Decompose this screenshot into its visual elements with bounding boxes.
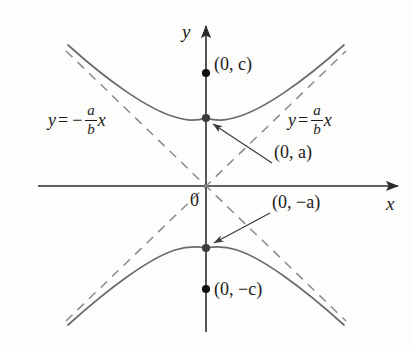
focus-lower-dot (202, 285, 210, 293)
eq-left-fraction: a b (85, 103, 97, 138)
eq-right-denominator: b (311, 122, 323, 138)
eq-right-fraction: a b (311, 103, 323, 138)
eq-left-equals: = (56, 111, 70, 129)
asymptote-negative-slope-equation: y = − a b x (48, 103, 106, 138)
asymptote-positive-slope-equation: y = a b x (288, 103, 332, 138)
hyperbola-figure: y x 0 (0, c) (0, a) (0, −a) (0, −c) y = … (0, 0, 411, 348)
vertex-lower-label: (0, −a) (272, 193, 320, 211)
eq-left-numerator: a (85, 103, 97, 119)
vertex-upper-dot (202, 114, 210, 122)
origin-label: 0 (190, 191, 199, 209)
eq-left-lhs: y (48, 111, 56, 129)
x-axis-label: x (386, 194, 394, 213)
vertex-upper-label: (0, a) (274, 143, 312, 161)
eq-left-sign: − (70, 111, 84, 129)
eq-right-variable: x (324, 111, 332, 129)
hyperbola-plot-canvas (0, 0, 411, 348)
eq-right-lhs: y (288, 111, 296, 129)
vertex-lower-dot (202, 244, 210, 252)
focus-upper-label: (0, c) (214, 55, 252, 73)
eq-left-variable: x (98, 111, 106, 129)
arrow-to-vertex-lower (214, 213, 270, 243)
focus-upper-dot (202, 69, 210, 77)
eq-right-equals: = (296, 111, 310, 129)
eq-right-numerator: a (311, 103, 323, 119)
focus-lower-label: (0, −c) (214, 280, 262, 298)
eq-left-denominator: b (85, 122, 97, 138)
y-axis-label: y (182, 22, 190, 41)
